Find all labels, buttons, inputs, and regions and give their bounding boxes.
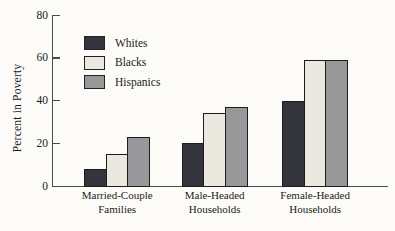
legend-item-whites: Whites <box>84 36 160 50</box>
y-tick-label-60: 60 <box>21 50 48 64</box>
legend-label-whites: Whites <box>115 37 148 50</box>
y-tick-80 <box>53 15 60 16</box>
bar-whites-male-headed-households <box>182 143 205 187</box>
legend-label-hispanics: Hispanics <box>115 76 160 89</box>
legend-swatch-hispanics <box>84 75 105 89</box>
legend-item-hispanics: Hispanics <box>84 75 160 89</box>
y-tick-20 <box>53 143 60 144</box>
bar-hispanics-male-headed-households <box>225 107 248 187</box>
y-tick-40 <box>53 100 60 101</box>
bar-blacks-male-headed-households <box>203 113 226 187</box>
legend-swatch-blacks <box>84 56 105 70</box>
y-axis-title: Percent in Poverty <box>9 23 25 194</box>
bar-hispanics-female-headed-households <box>325 60 348 187</box>
y-tick-label-80: 80 <box>21 8 48 22</box>
y-tick-label-40: 40 <box>21 93 48 107</box>
legend-item-blacks: Blacks <box>84 56 160 70</box>
legend-label-blacks: Blacks <box>115 56 146 69</box>
y-tick-60 <box>53 57 60 58</box>
legend: WhitesBlacksHispanics <box>84 36 160 89</box>
bar-blacks-married-couple-families <box>106 154 129 187</box>
legend-swatch-whites <box>84 36 105 50</box>
y-tick-label-20: 20 <box>21 136 48 150</box>
bar-whites-married-couple-families <box>84 169 107 187</box>
bar-whites-female-headed-households <box>282 101 305 188</box>
poverty-bar-chart: Percent in Poverty WhitesBlacksHispanics… <box>0 0 395 231</box>
y-tick-label-0: 0 <box>21 179 48 193</box>
bar-hispanics-married-couple-families <box>127 137 150 187</box>
bar-blacks-female-headed-households <box>304 60 327 187</box>
x-category-label-female-headed-households: Female-HeadedHouseholds <box>250 189 380 216</box>
